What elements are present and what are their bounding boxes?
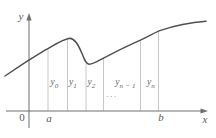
origin-label: 0 <box>19 112 25 123</box>
ellipsis-dots: ... <box>106 90 118 99</box>
a-tick-label: a <box>46 113 52 124</box>
ordinate-label-yn: yn <box>147 78 155 89</box>
ordinate-label-yn-1-sub: n − 1 <box>119 82 135 90</box>
ordinate-lines <box>48 31 159 111</box>
ordinate-label-y1-sub: 1 <box>73 82 77 90</box>
ordinate-label-y2-sub: 2 <box>92 82 96 90</box>
y-axis-label: y <box>19 11 24 22</box>
y-axis-arrow-icon <box>26 13 31 21</box>
ordinate-label-yn-1: yn − 1 <box>115 78 135 89</box>
ordinates-under-curve-figure: y x 0 a b y0 y1 y2 yn − 1 yn ... <box>0 0 216 138</box>
x-axis-label: x <box>203 114 208 125</box>
b-tick-label: b <box>158 112 164 123</box>
function-curve <box>5 21 206 76</box>
ordinate-label-y2: y2 <box>88 78 96 89</box>
ordinate-label-y1: y1 <box>69 78 77 89</box>
ordinate-label-y0-sub: 0 <box>55 82 59 90</box>
figure-canvas <box>0 0 216 138</box>
ordinate-label-yn-sub: n <box>151 82 155 90</box>
ordinate-label-y0: y0 <box>51 78 59 89</box>
